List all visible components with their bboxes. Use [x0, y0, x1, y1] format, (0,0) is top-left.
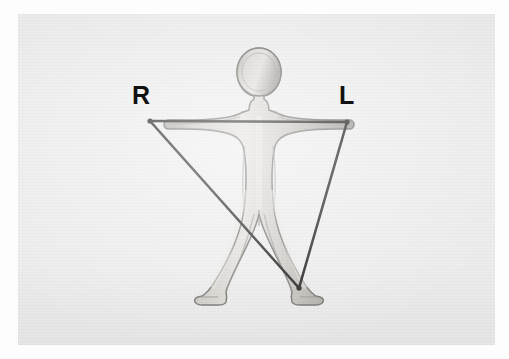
left-side-label: L [339, 83, 354, 108]
shoulder-span-line [150, 121, 347, 122]
head-shape [237, 48, 281, 96]
human-figure-group [164, 48, 354, 305]
vertex-dot-left-hand [344, 119, 349, 124]
left-hand-to-foot-line [299, 122, 347, 288]
body-diagram-svg [18, 14, 495, 345]
vertex-dot-right-hand [147, 118, 152, 123]
scanned-photo-area [18, 14, 495, 345]
vertex-dot-foot-apex [296, 285, 301, 290]
right-side-label: R [132, 83, 150, 108]
screenshot-canvas: R L [0, 0, 509, 359]
